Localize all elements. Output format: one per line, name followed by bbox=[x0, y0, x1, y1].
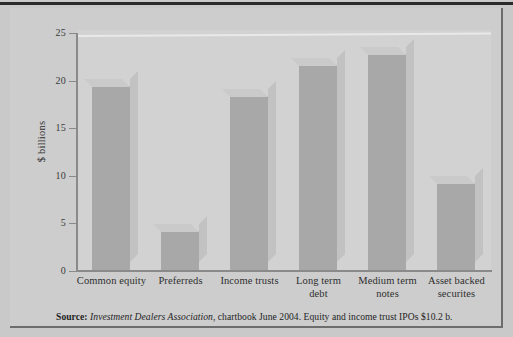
bar-side-face bbox=[406, 39, 414, 262]
y-tick-mark bbox=[69, 81, 77, 82]
bar bbox=[161, 231, 199, 270]
x-category-label-line: securites bbox=[413, 287, 500, 300]
bar-side-face bbox=[130, 71, 138, 262]
y-tick-label-text: 0 bbox=[40, 265, 66, 276]
y-tick-mark bbox=[69, 128, 77, 129]
x-category-label-line: Asset backed bbox=[413, 274, 500, 287]
y-tick-label-text: 20 bbox=[40, 75, 66, 86]
y-tick-label: 20 bbox=[40, 75, 66, 87]
y-tick-label: 5 bbox=[40, 217, 66, 229]
bar bbox=[437, 183, 475, 270]
y-tick-label: 0 bbox=[40, 265, 66, 277]
bar-side-face bbox=[199, 216, 207, 262]
y-tick-mark bbox=[69, 223, 77, 224]
y-tick-label: 25 bbox=[40, 27, 66, 39]
bar bbox=[299, 65, 337, 270]
y-tick-label-text: 25 bbox=[40, 27, 66, 38]
x-axis-labels: Common equityPreferredsIncome trustsLong… bbox=[66, 274, 506, 314]
y-tick-mark bbox=[69, 271, 77, 272]
bar-top-face bbox=[429, 176, 475, 184]
y-axis-title: $ billions bbox=[36, 97, 47, 187]
source-note: Source: Investment Dealers Association, … bbox=[56, 311, 501, 323]
scanned-page: 0510152025 $ billions Common equityPrefe… bbox=[0, 0, 513, 337]
y-tick-mark bbox=[69, 33, 77, 34]
x-axis-line bbox=[76, 270, 492, 272]
source-detail: , chartbook June 2004. Equity and income… bbox=[213, 311, 453, 322]
bar-top-face bbox=[153, 224, 199, 232]
bar-top-face bbox=[291, 58, 337, 66]
bar-side-face bbox=[475, 168, 483, 262]
y-tick-mark bbox=[69, 176, 77, 177]
figure-panel: 0510152025 $ billions Common equityPrefe… bbox=[10, 8, 503, 328]
source-label: Source: bbox=[56, 311, 88, 322]
page-top-rule bbox=[0, 2, 513, 5]
bar bbox=[368, 54, 406, 270]
figure-screenshot: 0510152025 $ billions Common equityPrefe… bbox=[0, 0, 513, 337]
bar-side-face bbox=[268, 81, 276, 262]
y-tick-label-text: 5 bbox=[40, 217, 66, 228]
bar-side-face bbox=[337, 50, 345, 262]
bar-top-face bbox=[222, 89, 268, 97]
source-publication: Investment Dealers Association bbox=[90, 311, 213, 322]
x-category-label: Asset backedsecurites bbox=[413, 274, 500, 300]
bar-top-face bbox=[360, 47, 406, 55]
bar-top-face bbox=[84, 79, 130, 87]
bar bbox=[230, 96, 268, 270]
bar bbox=[92, 86, 130, 270]
bar-series bbox=[78, 32, 492, 270]
